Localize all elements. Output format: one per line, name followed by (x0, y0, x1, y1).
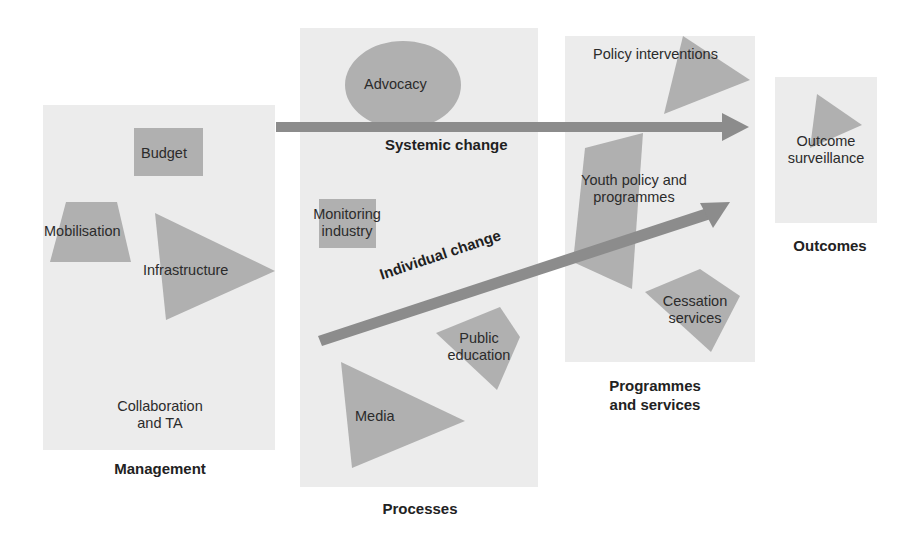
cessation-line-2: services (655, 310, 735, 327)
programmes-line-1: Programmes (590, 376, 720, 395)
policy-interventions-label: Policy interventions (593, 46, 718, 63)
media-label: Media (355, 408, 395, 425)
outcome-line-2: surveillance (772, 150, 880, 167)
outcomes-category-label: Outcomes (780, 236, 880, 255)
public-education-line-1: Public (436, 330, 522, 347)
cessation-line-1: Cessation (655, 293, 735, 310)
mobilisation-label: Mobilisation (44, 223, 121, 240)
management-category-label: Management (100, 459, 220, 478)
youth-policy-line-1: Youth policy and (564, 172, 704, 189)
monitoring-label: Monitoring industry (302, 206, 392, 240)
collaboration-line-1: Collaboration (100, 398, 220, 415)
public-education-label: Public education (436, 330, 522, 364)
collaboration-line-2: and TA (100, 415, 220, 432)
youth-policy-line-2: programmes (564, 189, 704, 206)
diagram-canvas (0, 0, 917, 538)
infrastructure-label: Infrastructure (143, 262, 228, 279)
advocacy-label: Advocacy (364, 76, 427, 93)
logic-model-diagram: Budget Mobilisation Infrastructure Colla… (0, 0, 917, 538)
collaboration-label: Collaboration and TA (100, 398, 220, 432)
systemic-change-label: Systemic change (385, 136, 508, 153)
processes-category-label: Processes (360, 499, 480, 518)
youth-policy-label: Youth policy and programmes (564, 172, 704, 206)
outcome-surveillance-label: Outcome surveillance (772, 133, 880, 167)
programmes-line-2: and services (590, 395, 720, 414)
monitoring-line-2: industry (302, 223, 392, 240)
budget-label: Budget (141, 145, 187, 162)
programmes-category-label: Programmes and services (590, 376, 720, 414)
outcome-line-1: Outcome (772, 133, 880, 150)
public-education-line-2: education (436, 347, 522, 364)
cessation-label: Cessation services (655, 293, 735, 327)
monitoring-line-1: Monitoring (302, 206, 392, 223)
